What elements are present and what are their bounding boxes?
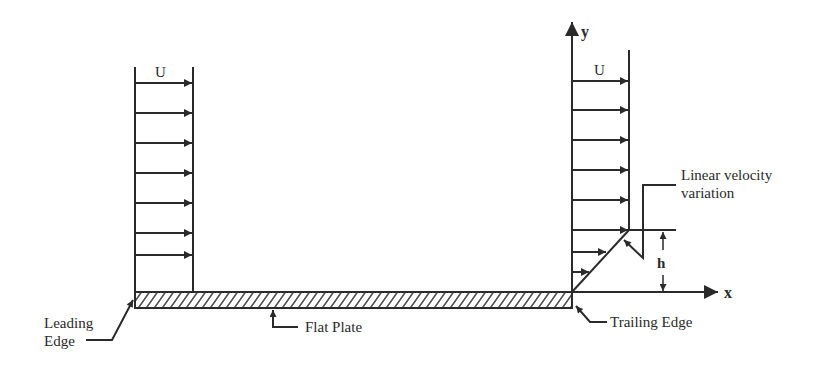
- trailing-edge-label: Trailing Edge: [610, 314, 693, 330]
- uniform-velocity-arrows-right: [572, 81, 628, 200]
- linear-variation-callout: Linear velocity variation: [624, 167, 773, 258]
- freestream-velocity-label-right: U: [594, 62, 605, 78]
- leading-edge-velocity-profile: U: [135, 64, 193, 292]
- h-label: h: [657, 255, 666, 271]
- leading-edge-callout: Leading Edge: [44, 300, 133, 349]
- uniform-velocity-arrows: [135, 83, 192, 255]
- leading-edge-label-line2: Edge: [44, 333, 75, 349]
- flat-plate-label: Flat Plate: [305, 319, 362, 335]
- trailing-edge-callout: Trailing Edge: [576, 306, 693, 330]
- flat-plate-callout: Flat Plate: [273, 310, 362, 335]
- linear-profile-line: [572, 230, 629, 292]
- flat-plate: [135, 292, 572, 308]
- x-axis-label: x: [724, 284, 732, 301]
- y-axis-label: y: [581, 23, 589, 41]
- leading-edge-label-line1: Leading: [44, 315, 94, 331]
- linear-variation-label-line1: Linear velocity: [681, 167, 773, 183]
- linear-variation-label-line2: variation: [681, 185, 735, 201]
- diagram-canvas: U Leading Edge Flat Plate U: [0, 0, 823, 373]
- height-dimension-h: h: [657, 232, 666, 291]
- flat-plate-diagram: U Leading Edge Flat Plate U: [0, 0, 823, 373]
- freestream-velocity-label-left: U: [155, 64, 166, 80]
